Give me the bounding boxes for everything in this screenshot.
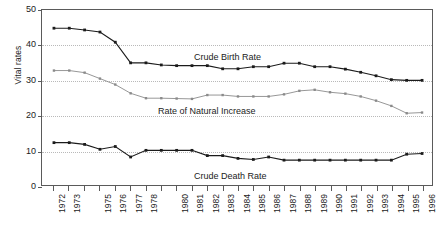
data-point (329, 159, 332, 162)
data-point (421, 79, 424, 82)
data-point (283, 93, 285, 95)
data-point (68, 27, 71, 30)
data-point (267, 65, 270, 68)
x-tick-mark (161, 186, 162, 191)
data-point (145, 97, 147, 99)
data-point (360, 95, 362, 97)
x-tick-label: 1982 (211, 194, 221, 213)
x-tick-label: 1988 (303, 194, 313, 213)
data-point (313, 89, 315, 91)
data-point (206, 94, 208, 96)
x-tick-label: 1983 (226, 194, 236, 213)
data-point (175, 97, 177, 99)
data-point (344, 68, 347, 71)
data-point (83, 143, 86, 146)
y-tick-label: 0 (14, 181, 36, 191)
data-point (175, 149, 178, 152)
data-point (252, 158, 255, 161)
data-point (206, 154, 209, 157)
x-tick-mark (315, 186, 316, 191)
data-point (252, 65, 255, 68)
x-tick-mark (269, 186, 270, 191)
data-point (298, 62, 301, 65)
y-tick-label: 50 (14, 4, 36, 14)
data-point (390, 78, 393, 81)
data-point (145, 149, 148, 152)
x-tick-mark (68, 186, 69, 191)
x-tick-label: 1995 (411, 194, 421, 213)
x-tick-label: 1991 (349, 194, 359, 213)
x-tick-label: 1993 (380, 194, 390, 213)
data-point (83, 29, 86, 32)
data-point (359, 159, 362, 162)
data-point (329, 65, 332, 68)
data-point (329, 91, 331, 93)
data-point (267, 156, 270, 159)
x-tick-mark (392, 186, 393, 191)
data-point (99, 148, 102, 151)
data-point (114, 41, 117, 44)
data-point (99, 77, 101, 79)
data-point (53, 141, 56, 144)
data-point (405, 79, 408, 82)
data-point (390, 159, 393, 162)
data-point (68, 69, 70, 71)
y-tick-label: 40 (14, 39, 36, 49)
x-tick-label: 1992 (365, 194, 375, 213)
x-tick-label: 1981 (195, 194, 205, 213)
data-point (298, 90, 300, 92)
x-tick-label: 1973 (72, 194, 82, 213)
x-tick-mark (130, 186, 131, 191)
data-point (175, 64, 178, 67)
data-point (221, 154, 224, 157)
x-tick-mark (300, 186, 301, 191)
series-label-crude-death-rate: Crude Death Rate (194, 171, 267, 181)
data-point (406, 112, 408, 114)
data-point (344, 92, 346, 94)
data-point (421, 152, 424, 155)
x-tick-mark (408, 186, 409, 191)
x-tick-mark (361, 186, 362, 191)
data-point (145, 61, 148, 64)
y-axis-tick-labels: 01020304050 (10, 0, 36, 235)
data-point (344, 159, 347, 162)
data-point (375, 159, 378, 162)
x-axis: 1972197319751976197719781980198119821983… (41, 186, 433, 235)
x-tick-mark (53, 186, 54, 191)
data-point (405, 153, 408, 156)
data-point (191, 98, 193, 100)
series-crude-death-rate (53, 141, 424, 161)
data-point (237, 95, 239, 97)
x-tick-label: 1985 (257, 194, 267, 213)
data-point (421, 111, 423, 113)
data-point (53, 69, 55, 71)
data-point (221, 67, 224, 70)
data-point (283, 159, 286, 162)
x-tick-label: 1976 (118, 194, 128, 213)
data-point (129, 92, 131, 94)
data-point (390, 105, 392, 107)
data-point (283, 62, 286, 65)
data-point (313, 159, 316, 162)
data-point (83, 71, 85, 73)
data-point (160, 97, 162, 99)
x-tick-label: 1989 (319, 194, 329, 213)
data-point (191, 149, 194, 152)
data-point (114, 145, 117, 148)
data-point (298, 159, 301, 162)
x-tick-label: 1977 (134, 194, 144, 213)
data-point (206, 64, 209, 67)
x-tick-mark (176, 186, 177, 191)
data-point (267, 95, 269, 97)
series-label-rate-of-natural-increase: Rate of Natural Increase (158, 106, 256, 116)
series-lines (42, 10, 432, 185)
x-tick-label: 1994 (396, 194, 406, 213)
x-tick-mark (207, 186, 208, 191)
data-point (252, 95, 254, 97)
y-tick-label: 20 (14, 110, 36, 120)
chart-container: Vital rates 01020304050 Crude Birth Rate… (0, 0, 440, 235)
x-tick-label: 1975 (103, 194, 113, 213)
x-tick-mark (423, 186, 424, 191)
y-tick-label: 10 (14, 146, 36, 156)
data-point (313, 65, 316, 68)
